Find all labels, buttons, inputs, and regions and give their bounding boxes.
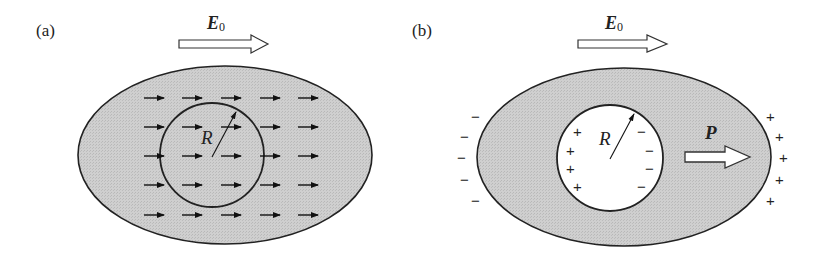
radius-label: R <box>599 129 611 148</box>
cavity-positive-charge: + <box>573 179 582 194</box>
outer-negative-charge: − <box>460 172 469 187</box>
panel-b <box>477 35 771 246</box>
cavity-negative-charge: − <box>645 161 654 176</box>
external-field-arrow-icon <box>578 35 667 52</box>
cavity-positive-charge: + <box>566 143 575 158</box>
polarization-label: P <box>705 123 717 142</box>
field-subscript: 0 <box>617 20 623 34</box>
outer-positive-charge: + <box>775 129 784 144</box>
field-symbol: E <box>207 13 219 33</box>
field-subscript: 0 <box>219 20 225 34</box>
outer-negative-charge: − <box>471 193 480 208</box>
outer-positive-charge: + <box>779 150 788 165</box>
outer-positive-charge: + <box>766 193 775 208</box>
outer-negative-charge: − <box>457 150 466 165</box>
diagram-canvas <box>0 0 820 261</box>
panel-a <box>78 35 372 244</box>
outer-positive-charge: + <box>766 109 775 124</box>
outer-negative-charge: − <box>460 129 469 144</box>
radius-label: R <box>201 128 213 147</box>
cavity-negative-charge: − <box>637 124 646 139</box>
panel-a-label: (a) <box>36 22 55 39</box>
outer-negative-charge: − <box>471 109 480 124</box>
field-symbol: E <box>605 13 617 33</box>
external-field-arrow-icon <box>179 35 268 53</box>
cavity-positive-charge: + <box>573 124 582 139</box>
cavity-negative-charge: − <box>645 143 654 158</box>
external-field-label: E0 <box>605 14 623 33</box>
outer-positive-charge: + <box>775 172 784 187</box>
panel-b-label: (b) <box>412 22 432 39</box>
external-field-label: E0 <box>207 14 225 33</box>
cavity-positive-charge: + <box>566 161 575 176</box>
dielectric-ellipse <box>78 66 372 244</box>
cavity-negative-charge: − <box>637 179 646 194</box>
